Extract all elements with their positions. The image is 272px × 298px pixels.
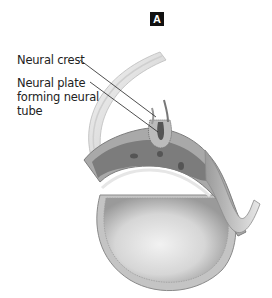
label-neural-plate: Neural plate forming neural tube <box>17 76 107 118</box>
label-neural-crest: Neural crest <box>17 53 85 67</box>
dorsal-aorta-left <box>130 154 138 159</box>
dorsal-aorta-right <box>178 162 184 170</box>
embryo-cross-section-illustration <box>0 0 272 298</box>
notochord <box>157 151 163 157</box>
neural-plate <box>148 100 171 148</box>
yolk-sac <box>97 195 236 291</box>
